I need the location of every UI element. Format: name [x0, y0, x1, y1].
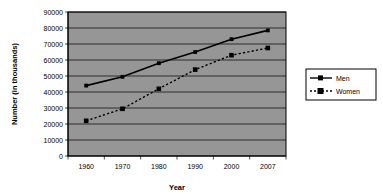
- legend-item-women[interactable]: Women: [310, 88, 360, 95]
- data-point: [157, 87, 162, 92]
- y-tick-label: 60000: [44, 57, 64, 64]
- x-tick-label: 1970: [115, 163, 131, 170]
- y-axis-title: Number (in thousands): [10, 42, 19, 125]
- x-tick-label: 2000: [224, 163, 240, 170]
- y-tick-label: 20000: [44, 121, 64, 128]
- data-point: [120, 107, 125, 112]
- x-axis-title: Year: [169, 183, 185, 192]
- legend-marker-women: [318, 88, 324, 94]
- x-tick-label: 1980: [151, 163, 167, 170]
- data-point: [84, 119, 89, 124]
- x-tick-label: 2007: [260, 163, 276, 170]
- y-tick-label: 10000: [44, 137, 64, 144]
- x-tick-label: 1960: [78, 163, 94, 170]
- data-point: [84, 84, 88, 88]
- data-point: [193, 50, 197, 54]
- y-tick-label: 0: [59, 153, 63, 160]
- legend-label-women: Women: [336, 88, 360, 95]
- data-point: [229, 53, 234, 58]
- y-tick-label: 40000: [44, 89, 64, 96]
- data-point: [121, 75, 125, 79]
- legend-marker-men: [318, 75, 323, 80]
- y-tick-label: 90000: [44, 9, 64, 16]
- data-point: [266, 29, 270, 33]
- line-chart: 0100002000030000400005000060000700008000…: [0, 0, 383, 196]
- data-point: [157, 61, 161, 65]
- y-tick-label: 70000: [44, 41, 64, 48]
- legend: Men Women: [306, 69, 376, 100]
- x-tick-label: 1990: [187, 163, 203, 170]
- y-tick-label: 80000: [44, 25, 64, 32]
- data-point: [193, 67, 198, 72]
- chart-container: 0100002000030000400005000060000700008000…: [0, 0, 383, 196]
- data-point: [266, 46, 271, 51]
- legend-label-men: Men: [336, 75, 350, 82]
- y-tick-label: 50000: [44, 73, 64, 80]
- legend-box: [306, 69, 376, 100]
- y-tick-label: 30000: [44, 105, 64, 112]
- data-point: [230, 37, 234, 41]
